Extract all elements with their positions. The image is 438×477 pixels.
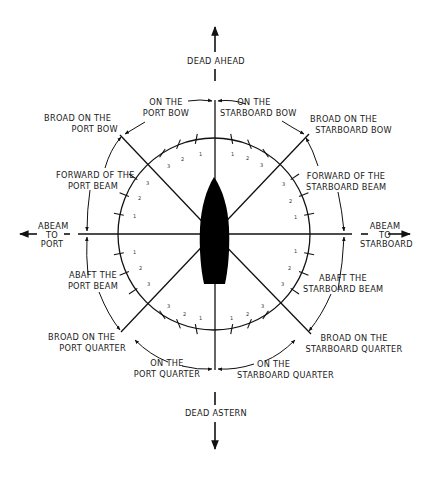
tick-num: 3 [281, 281, 284, 287]
tick-num: 1 [199, 151, 202, 157]
label-line: PORT BOW [44, 124, 118, 135]
tick-num: 1 [133, 249, 136, 255]
arc-broad-starboard-bow [282, 121, 304, 134]
label-line: STARBOARD BEAM [306, 182, 386, 193]
abeam-to-port-label: ABEAM TO PORT [38, 221, 66, 250]
label-line: FORWARD OF THE [56, 170, 130, 181]
tick-num: 3 [146, 180, 149, 186]
arc-on-port-bow [188, 100, 212, 101]
tick-num: 3 [147, 281, 150, 287]
arc-forward-starboard-beam-down [338, 192, 344, 231]
arc-forward-port-beam-down [87, 190, 90, 231]
tick-num: 2 [138, 195, 141, 201]
label-line: PORT QUARTER [132, 369, 202, 380]
label-line: ABAFT THE [303, 273, 383, 284]
tick-num: 2 [288, 265, 291, 271]
arc-abaft-port-beam-down [99, 292, 120, 330]
arc-abaft-starboard-beam-down [309, 294, 331, 331]
broad-on-port-quarter-label: BROAD ON THE PORT QUARTER [48, 332, 126, 354]
arc-forward-port-beam-up [105, 137, 121, 168]
label-line: STARBOARD BEAM [303, 284, 383, 295]
label-line: STARBOARD QUARTER [305, 344, 403, 355]
abaft-starboard-beam-label: ABAFT THE STARBOARD BEAM [303, 273, 383, 295]
tick-num: 1 [133, 213, 136, 219]
tick-num: 1 [231, 151, 234, 157]
on-port-quarter-label: ON THE PORT QUARTER [132, 358, 202, 380]
tick-num: 3 [167, 163, 170, 169]
broad-on-starboard-quarter-label: BROAD ON THE STARBOARD QUARTER [305, 333, 403, 355]
tick-num: 2 [139, 265, 142, 271]
label-line: PORT BEAM [56, 181, 130, 192]
abeam-starboard-line3: STARBOARD [360, 239, 410, 250]
label-line: ON THE [220, 97, 288, 108]
abaft-port-beam-label: ABAFT THE PORT BEAM [62, 270, 124, 292]
tick-num: 2 [246, 155, 249, 161]
label-line: STARBOARD BOW [220, 108, 288, 119]
forward-of-starboard-beam-label: FORWARD OF THE STARBOARD BEAM [306, 171, 386, 193]
label-line: ON THE [142, 97, 190, 108]
tick-num: 1 [294, 248, 297, 254]
on-starboard-quarter-label: ON THE STARBOARD QUARTER [237, 359, 331, 381]
tick-num: 1 [294, 214, 297, 220]
broad-on-port-bow-label: BROAD ON THE PORT BOW [44, 113, 118, 135]
ship-silhouette [200, 177, 230, 284]
dead-astern-label: DEAD ASTERN [184, 408, 248, 419]
label-line: ON THE [237, 359, 331, 370]
tick-num: 2 [181, 156, 184, 162]
label-line: BROAD ON THE [48, 332, 126, 343]
label-line: STARBOARD QUARTER [237, 370, 331, 381]
tick-num: 1 [199, 315, 202, 321]
label-line: STARBOARD BOW [310, 125, 392, 136]
arc-broad-port-bow [125, 122, 145, 134]
tick-num: 3 [260, 162, 263, 168]
dead-ahead-label: DEAD AHEAD [186, 56, 246, 67]
label-line: ABAFT THE [62, 270, 124, 281]
abeam-port-line3: PORT [38, 239, 66, 250]
tick-num: 1 [230, 315, 233, 321]
label-line: BROAD ON THE [44, 113, 118, 124]
broad-on-starboard-bow-label: BROAD ON THE STARBOARD BOW [310, 114, 392, 136]
label-line: BROAD ON THE [305, 333, 403, 344]
label-line: ON THE [132, 358, 202, 369]
label-line: FORWARD OF THE [306, 171, 386, 182]
tick-num: 2 [246, 311, 249, 317]
label-line: BROAD ON THE [310, 114, 392, 125]
label-line: PORT BOW [142, 108, 190, 119]
forward-of-port-beam-label: FORWARD OF THE PORT BEAM [56, 170, 130, 192]
tick-num: 3 [261, 303, 264, 309]
on-port-bow-label: ON THE PORT BOW [142, 97, 190, 119]
abeam-to-starboard-label: ABEAM TO STARBOARD [360, 221, 410, 250]
label-line: PORT BEAM [62, 281, 124, 292]
abeam-starboard-line2: TO [360, 232, 410, 239]
tick-num: 2 [289, 198, 292, 204]
abeam-port-line2: TO [38, 232, 66, 239]
tick-num: 2 [183, 311, 186, 317]
tick-num: 3 [282, 181, 285, 187]
on-starboard-bow-label: ON THE STARBOARD BOW [220, 97, 288, 119]
arc-forward-starboard-beam-up [306, 138, 318, 166]
tick-num: 3 [167, 303, 170, 309]
arc-broad-starboard-quarter [265, 340, 295, 361]
label-line: PORT QUARTER [48, 343, 126, 354]
